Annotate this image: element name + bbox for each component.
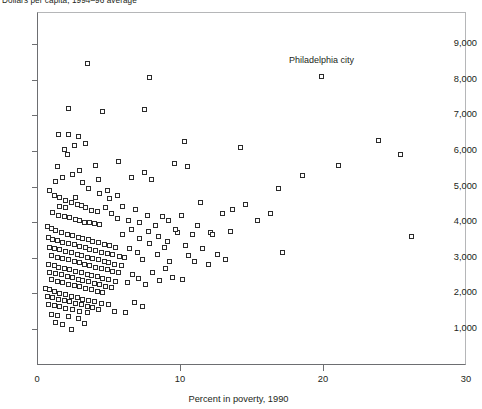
annotation-philadelphia-city: Philadelphia city — [289, 55, 354, 65]
y-axis-tick-label: 7,000 — [441, 109, 477, 119]
y-axis-tick — [32, 293, 38, 294]
chart-title: Dollars per capita, 1994–96 average — [2, 0, 137, 5]
y-axis-tick — [32, 151, 38, 152]
x-axis-tick — [323, 365, 324, 371]
y-axis-tick — [32, 80, 38, 81]
x-axis-tick — [180, 365, 181, 371]
y-axis-tick — [32, 44, 38, 45]
y-axis-tick-label: 4,000 — [441, 216, 477, 226]
y-axis-tick-label: 6,000 — [441, 145, 477, 155]
y-axis-tick — [32, 115, 38, 116]
y-axis-tick — [32, 258, 38, 259]
y-axis-tick-label: 2,000 — [441, 287, 477, 297]
x-axis-tick-label: 30 — [446, 374, 482, 384]
y-axis-tick-label: 1,000 — [441, 323, 477, 333]
x-axis-title: Percent in poverty, 1990 — [0, 394, 477, 404]
plot-area — [37, 12, 466, 365]
y-axis-tick-label: 3,000 — [441, 252, 477, 262]
y-axis-tick-label: 9,000 — [441, 38, 477, 48]
y-axis-tick — [32, 222, 38, 223]
x-axis-tick-label: 10 — [160, 374, 200, 384]
y-axis-tick-label: 5,000 — [441, 181, 477, 191]
y-axis-tick — [32, 329, 38, 330]
y-axis-tick-label: 8,000 — [441, 74, 477, 84]
x-axis-tick-label: 0 — [17, 374, 57, 384]
y-axis-tick — [32, 187, 38, 188]
x-axis-tick-label: 20 — [303, 374, 343, 384]
